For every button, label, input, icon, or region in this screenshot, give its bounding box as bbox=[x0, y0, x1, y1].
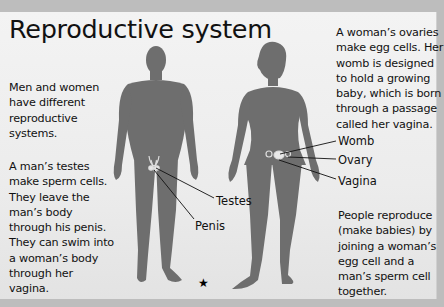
male-description-paragraph: A man’s testes make sperm cells. They le… bbox=[9, 159, 114, 297]
intro-paragraph: Men and women have different reproductiv… bbox=[9, 80, 109, 141]
female-description-paragraph: A woman’s ovaries make egg cells. Her wo… bbox=[336, 25, 444, 132]
label-penis: Penis bbox=[195, 219, 225, 233]
label-testes: Testes bbox=[216, 194, 252, 208]
reproduction-paragraph: People reproduce (make babies) by joinin… bbox=[338, 208, 444, 300]
label-ovary: Ovary bbox=[338, 153, 372, 167]
label-vagina: Vagina bbox=[338, 174, 377, 188]
female-silhouette-icon bbox=[228, 42, 319, 289]
label-womb: Womb bbox=[338, 134, 374, 148]
star-icon: ★ bbox=[198, 276, 209, 290]
